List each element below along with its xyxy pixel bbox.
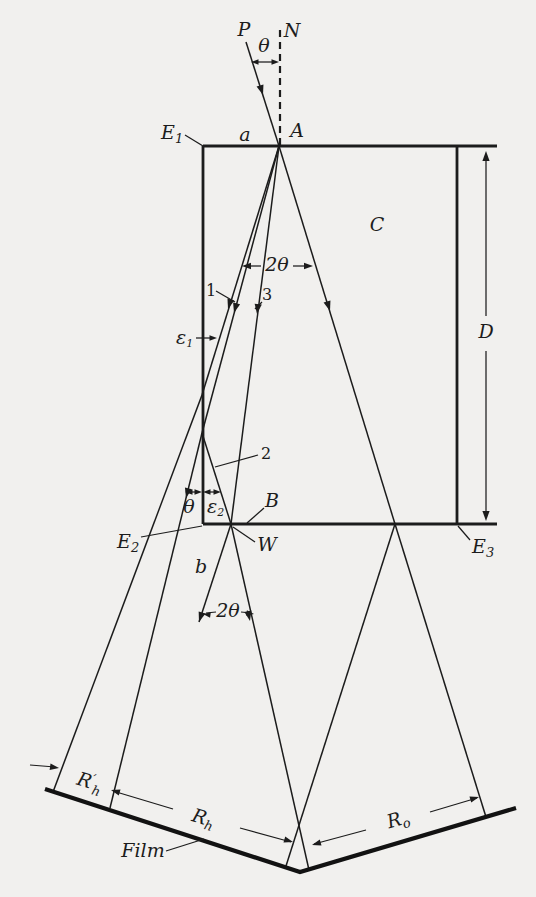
- diffracted-beam-from-V: [286, 524, 395, 866]
- theta-top-label: θ: [258, 34, 270, 56]
- two-theta-lower-label: 2θ: [215, 599, 240, 621]
- direct-beam-to-film: [395, 524, 486, 817]
- theta-exit-label: θ: [183, 495, 195, 517]
- ray2-label: 2: [261, 444, 271, 463]
- surface-point-label: B: [264, 489, 279, 511]
- incident-beam-arrowhead: [257, 84, 267, 96]
- ray-3: [231, 146, 279, 524]
- b-point-leader: [247, 508, 264, 523]
- normal-label: N: [283, 19, 302, 41]
- e3-leader: [458, 526, 470, 540]
- side-exit-beam-1: [53, 395, 202, 792]
- ray1-label: 1: [206, 281, 216, 300]
- incident-beam-label: P: [237, 18, 252, 40]
- rh-prime-label: R′h: [72, 767, 105, 800]
- crystal-outline: [203, 146, 497, 524]
- film-label-leader: [166, 839, 204, 851]
- direct-beam-arrowhead: [324, 300, 334, 312]
- crystal-label: C: [370, 213, 385, 235]
- epsilon1-dimension: [196, 335, 217, 340]
- diffraction-diagram: P N θ E1 a A C 2θ 1 3 2 ε1 θ ε2 E2 B W b…: [0, 0, 536, 897]
- film-line: [45, 789, 516, 872]
- two-theta-upper-label: 2θ: [264, 253, 289, 275]
- direct-beam-inside-ray: [279, 146, 395, 524]
- rh-label: Rh: [188, 803, 218, 834]
- ray-2-arrowhead: [231, 302, 241, 314]
- film-label: Film: [120, 839, 164, 861]
- exit-region-label: b: [195, 555, 207, 577]
- e1-leader: [185, 135, 203, 146]
- rh-prime-dimension: [30, 764, 59, 772]
- edge1-label: E1: [160, 121, 183, 146]
- entrance-region-label: a: [239, 123, 250, 145]
- edge2-label: E2: [116, 530, 139, 555]
- diffracted-stub-arrowhead: [196, 611, 206, 623]
- exit-point-label: W: [257, 533, 278, 555]
- figure-canvas: P N θ E1 a A C 2θ 1 3 2 ε1 θ ε2 E2 B W b…: [0, 0, 536, 897]
- epsilon2-dimension: [203, 489, 221, 494]
- epsilon1-label: ε1: [176, 326, 193, 350]
- ray3-label: 3: [262, 285, 272, 304]
- epsilon2-label: ε2: [207, 495, 224, 519]
- theta-top-dimension: [251, 59, 279, 64]
- edge3-label: E3: [471, 535, 494, 560]
- entrance-point-label: A: [288, 119, 304, 141]
- ro-label: Ro: [383, 805, 412, 835]
- thickness-label: D: [477, 320, 493, 342]
- w-leader: [233, 527, 255, 542]
- ray2-label-leader: [215, 455, 258, 467]
- forward-beam-from-W: [231, 524, 309, 870]
